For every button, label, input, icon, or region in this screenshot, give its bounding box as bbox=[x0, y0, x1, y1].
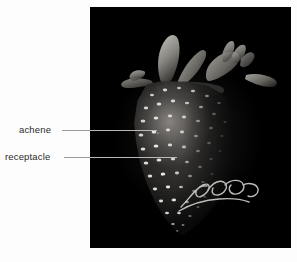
strawberry-receptacle bbox=[132, 81, 237, 236]
callout-label-receptacle: receptacle bbox=[5, 151, 50, 162]
photo-canvas bbox=[90, 7, 291, 248]
strawberry-photograph bbox=[90, 7, 291, 248]
callout-label-achene: achene bbox=[19, 124, 51, 135]
callout-leader-receptacle-inner bbox=[90, 157, 177, 158]
surface-scribble-mark bbox=[177, 173, 263, 221]
callout-leader-achene-inner bbox=[90, 130, 157, 131]
figure-root: achene receptacle bbox=[0, 0, 297, 262]
